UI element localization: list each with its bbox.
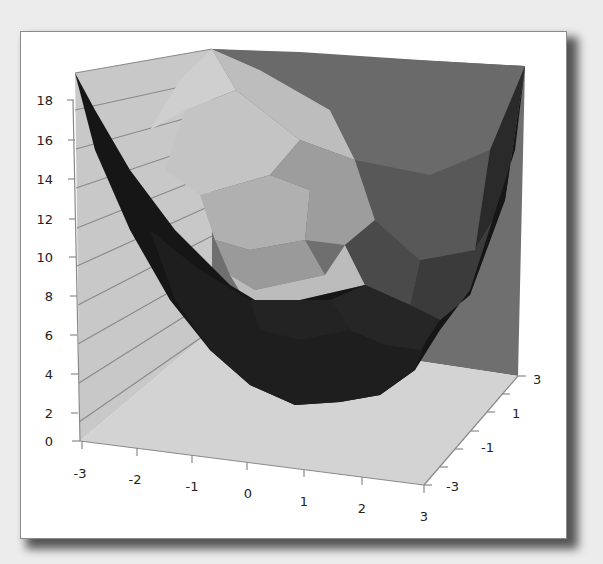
z-tick-label: 8 bbox=[45, 289, 53, 304]
y-tick-label: 1 bbox=[512, 406, 520, 421]
z-tick-label: 2 bbox=[45, 406, 53, 421]
z-tick-label: 10 bbox=[36, 250, 53, 265]
x-tick-label: 1 bbox=[300, 494, 308, 509]
x-tick-label: 0 bbox=[244, 486, 252, 501]
y-tick-label: 3 bbox=[533, 372, 541, 387]
z-tick-label: 16 bbox=[36, 133, 53, 148]
x-tick-label: -3 bbox=[74, 466, 87, 481]
surface-chart: 18 16 14 12 10 8 6 4 2 0 -3 -2 -1 0 1 2 … bbox=[0, 0, 603, 564]
z-tick-label: 6 bbox=[45, 328, 53, 343]
x-tick-label: 2 bbox=[358, 501, 366, 516]
y-tick-label: -1 bbox=[481, 440, 494, 455]
x-tick-label: -2 bbox=[129, 472, 142, 487]
z-tick-label: 12 bbox=[36, 212, 53, 227]
z-tick-label: 18 bbox=[36, 93, 53, 108]
z-axis-labels: 18 16 14 12 10 8 6 4 2 0 bbox=[36, 93, 53, 449]
z-tick-label: 0 bbox=[45, 434, 53, 449]
x-tick-label: 3 bbox=[420, 509, 428, 524]
y-tick-label: -3 bbox=[446, 479, 459, 494]
z-tick-label: 4 bbox=[45, 367, 53, 382]
z-tick-label: 14 bbox=[36, 172, 53, 187]
x-tick-label: -1 bbox=[186, 479, 199, 494]
